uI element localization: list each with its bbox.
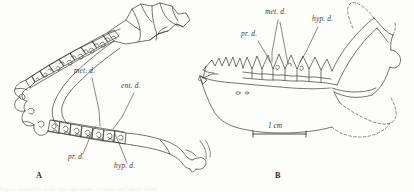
label-pr-d-panel-a: pr. d. <box>68 153 84 160</box>
panel-letter-a: A <box>36 172 42 180</box>
panel-a-lower-teeth <box>48 120 126 144</box>
panel-b-coronoid-process-inner <box>337 28 377 85</box>
panel-a-leader-lines <box>83 78 134 163</box>
panel-b-leader-lines <box>258 20 318 63</box>
panel-a-inner-arch <box>52 41 114 126</box>
panel-a-upper-toothrow-inner <box>30 41 114 88</box>
panel-a-right-ramus <box>108 3 190 44</box>
panel-letter-b: B <box>275 172 281 180</box>
panel-a-inner-arch-2 <box>62 48 120 124</box>
panel-a-mandible-occlusal <box>15 3 206 172</box>
panel-b-ramus-reconstructed-dashed <box>332 3 396 137</box>
panel-a-symphysis-incisors <box>15 80 48 135</box>
label-met-d-panel-a: met. d. <box>74 67 95 74</box>
caption-sliver: Fig. — mandible of the type specimen, oc… <box>0 186 414 192</box>
panel-b-left-edge-fragment <box>200 140 210 159</box>
label-met-d-panel-b: met. d. <box>265 8 286 15</box>
panel-b-mandible-lateral <box>199 3 401 137</box>
panel-b-cheek-teeth <box>243 54 337 85</box>
panel-b-mental-foramina <box>236 92 249 95</box>
label-hyp-d-panel-a: hyp. d. <box>114 162 135 169</box>
panel-a-upper-toothrow-outer <box>26 29 120 80</box>
figure-line-art <box>0 0 414 192</box>
panel-a-upper-teeth <box>26 30 119 87</box>
label-ent-d-panel-a: ent. d. <box>121 82 141 89</box>
label-hyp-d-panel-b: hyp. d. <box>312 15 333 22</box>
panel-a-lower-ramus <box>126 133 206 172</box>
panel-b-jaw-body-upper <box>200 76 330 89</box>
panel-b-anterior-teeth <box>200 57 243 84</box>
panel-b-coronoid-process <box>332 18 374 71</box>
scale-bar-label: 1 cm <box>268 122 282 129</box>
figure-plate: met. d. ent. d. pr. d. hyp. d. met. d. h… <box>0 0 414 192</box>
label-pr-d-panel-b: pr. d. <box>241 30 257 37</box>
panel-b-ramus-solid <box>332 18 401 103</box>
panel-b-jaw-body-lower <box>201 80 332 133</box>
